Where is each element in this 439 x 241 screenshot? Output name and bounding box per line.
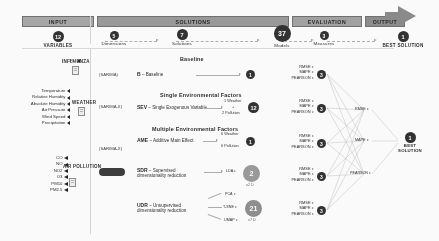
arrow-icon	[367, 108, 369, 110]
final-metric-pearson: PEARSON	[350, 171, 371, 175]
best-solution-label-line2: SOLUTION	[390, 148, 430, 153]
metric-label: RMSE	[355, 107, 366, 111]
metric-label: MAPE	[355, 138, 365, 142]
final-metric-mape: MAPE	[355, 138, 369, 142]
metric-label: PEARSON	[350, 171, 368, 175]
final-metric-rmse: RMSE	[355, 107, 369, 111]
best-solution-node: 1 BEST SOLUTION	[390, 132, 430, 153]
arrow-icon	[367, 139, 369, 141]
diagram-canvas: INPUT SOLUTIONS EVALUATION OUTPUT 12 VAR…	[0, 0, 439, 241]
metric-convergence-lines	[0, 0, 439, 241]
best-solution-count: 1	[405, 132, 416, 143]
arrow-icon	[369, 172, 371, 174]
